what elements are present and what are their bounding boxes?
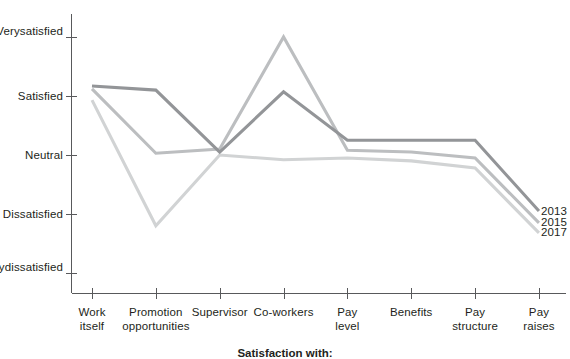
y-tick-label: Verydissatisfied: [0, 261, 63, 274]
series-line-2015: [92, 37, 539, 223]
chart-series-group: [92, 37, 539, 233]
y-tick-label: Neutral: [0, 149, 63, 162]
series-line-2013: [92, 86, 539, 211]
series-line-2017: [92, 100, 539, 233]
y-tick-label: Dissatisfied: [0, 208, 63, 221]
legend-label-2017: 2017: [541, 226, 567, 239]
y-tick-label: Satisfied: [0, 90, 63, 103]
chart-axes: [72, 14, 567, 294]
y-tick-label: Verysatisfied: [0, 25, 63, 38]
x-axis-title: Satisfaction with:: [0, 347, 570, 359]
x-tick-label: Payraises: [489, 305, 570, 333]
